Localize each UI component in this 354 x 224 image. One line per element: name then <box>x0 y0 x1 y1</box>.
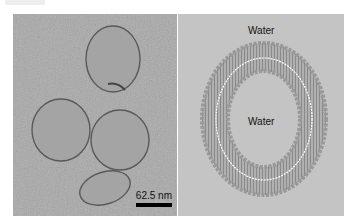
outer-water-label: Water <box>248 25 274 36</box>
vesicle-micrograph-image <box>13 14 177 216</box>
vesicle-diagram-panel: Water Water <box>178 14 344 216</box>
scale-bar-label: 62.5 nm <box>136 190 172 201</box>
scale-bar <box>136 203 172 207</box>
lipid-bilayer-icon <box>178 14 344 216</box>
inner-water-label: Water <box>248 116 274 127</box>
tem-micrograph-panel: 62.5 nm <box>13 14 177 216</box>
cropped-panel-label <box>5 0 45 5</box>
